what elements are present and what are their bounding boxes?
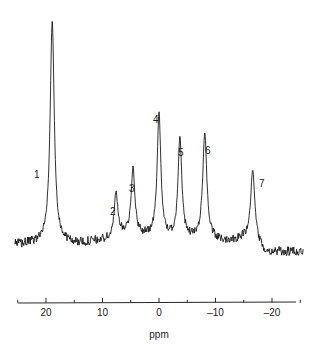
spectrum-trace-group: [15, 21, 303, 255]
spectrum-plot: [0, 0, 314, 352]
peak-label-7: 7: [259, 179, 265, 189]
x-axis-tick-label: 20: [40, 308, 51, 318]
axis-group: [18, 298, 301, 303]
x-axis-tick-label: –10: [207, 308, 224, 318]
x-axis-tick-label: 10: [97, 308, 108, 318]
peak-label-1: 1: [34, 170, 40, 180]
peak-label-4: 4: [153, 115, 159, 125]
x-axis-line: [18, 302, 296, 303]
peak-label-5: 5: [178, 148, 184, 158]
x-axis-tick-label: 0: [156, 308, 162, 318]
x-axis-title: ppm: [149, 330, 168, 340]
peak-label-6: 6: [205, 146, 211, 156]
nmr-spectrum-figure: 1234567 20100–10–20 ppm: [0, 0, 314, 352]
peak-label-2: 2: [110, 207, 116, 217]
peak-label-3: 3: [129, 184, 135, 194]
spectrum-trace: [15, 21, 303, 255]
x-axis-tick-label: –20: [264, 308, 281, 318]
